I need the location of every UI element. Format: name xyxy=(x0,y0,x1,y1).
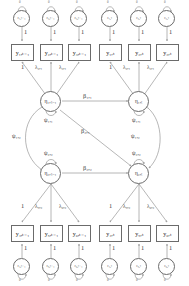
observed-label: y₁,ₜ xyxy=(106,50,115,56)
loading-label-lambda21: λ₂,₁ xyxy=(123,65,130,70)
error-label: ε₃,ₜ xyxy=(164,17,169,21)
error-node-eps2-t[interactable]: ε₂,ₜ xyxy=(130,10,147,27)
error-node-eps6-t[interactable]: ε₆,ₜ xyxy=(158,258,175,275)
unit-loading-label: 1 xyxy=(109,64,112,70)
error-node-eps1-t[interactable]: ε₁,ₜ xyxy=(101,10,118,27)
unit-loading-label: 1 xyxy=(112,29,115,35)
observed-label: y₃,ₜ₋₁ xyxy=(73,50,87,56)
latent-node-eta1-t-1[interactable]: η₁,ₜ₋₁ xyxy=(40,91,61,112)
observed-node-y1-t[interactable]: y₁,ₜ xyxy=(99,44,122,61)
observed-label: y₂,ₜ₋₁ xyxy=(45,50,59,56)
unit-loading-label: 1 xyxy=(141,245,144,251)
loading-label-lambda31: λ₃,₁ xyxy=(147,65,154,70)
latent-label: η₁,ₜ xyxy=(135,99,142,104)
observed-label: y₂,ₜ xyxy=(135,50,144,56)
theta-label: θ xyxy=(19,279,21,282)
observed-node-y6-t[interactable]: y₆,ₜ xyxy=(156,225,179,242)
error-label: ε₁,ₜ₋₁ xyxy=(18,17,26,21)
unit-loading-label: 1 xyxy=(53,29,56,35)
error-label: ε₃,ₜ₋₁ xyxy=(75,17,83,21)
error-node-eps6-t-1[interactable]: ε₆,ₜ₋₁ xyxy=(70,258,87,275)
variance-label-psi22-left: ψ₂,₂ xyxy=(44,151,53,157)
observed-label: y₆,ₜ xyxy=(163,231,172,237)
error-node-eps3-t-1[interactable]: ε₃,ₜ₋₁ xyxy=(70,10,87,27)
error-label: ε₁,ₜ xyxy=(107,17,112,21)
observed-node-y1-t-1[interactable]: y₁,ₜ₋₁ xyxy=(11,44,34,61)
unit-loading-label: 1 xyxy=(109,203,112,209)
observed-label: y₃,ₜ xyxy=(163,50,172,56)
error-label: ε₅,ₜ₋₁ xyxy=(47,265,55,269)
unit-loading-label: 1 xyxy=(169,245,172,251)
unit-loading-label: 1 xyxy=(24,29,27,35)
observed-label: y₆,ₜ₋₁ xyxy=(73,231,87,237)
loading-label-lambda62: λ₆,₂ xyxy=(59,204,66,209)
error-node-eps1-t-1[interactable]: ε₁,ₜ₋₁ xyxy=(13,10,30,27)
variance-label-psi11-right: ψ₁,₁ xyxy=(132,118,141,124)
variance-label-psi22-right: ψ₂,₂ xyxy=(132,151,141,157)
error-label: ε₅,ₜ xyxy=(136,265,141,269)
error-node-eps5-t[interactable]: ε₅,ₜ xyxy=(130,258,147,275)
theta-label: θ xyxy=(164,1,166,4)
theta-label: θ xyxy=(48,1,50,4)
observed-node-y5-t-1[interactable]: y₅,ₜ₋₁ xyxy=(40,225,63,242)
theta-label: θ xyxy=(76,279,78,282)
observed-node-y4-t[interactable]: y₄,ₜ xyxy=(99,225,122,242)
diagram-wires xyxy=(0,0,189,286)
error-label: ε₂,ₜ₋₁ xyxy=(47,17,55,21)
observed-node-y3-t-1[interactable]: y₃,ₜ₋₁ xyxy=(68,44,91,61)
loading-label-lambda31: λ₃,₁ xyxy=(59,65,66,70)
error-node-eps4-t[interactable]: ε₄,ₜ xyxy=(101,258,118,275)
theta-label: θ xyxy=(164,279,166,282)
latent-label: η₂,ₜ₋₁ xyxy=(45,171,57,176)
error-node-eps4-t-1[interactable]: ε₄,ₜ₋₁ xyxy=(13,258,30,275)
theta-label: θ xyxy=(48,279,50,282)
loading-label-lambda21: λ₂,₁ xyxy=(35,65,42,70)
unit-loading-label: 1 xyxy=(112,245,115,251)
observed-label: y₄,ₜ xyxy=(106,231,115,237)
unit-loading-label: 1 xyxy=(169,29,172,35)
theta-label: θ xyxy=(107,1,109,4)
error-node-eps3-t[interactable]: ε₃,ₜ xyxy=(158,10,175,27)
variance-label-psi11-left: ψ₁,₁ xyxy=(44,118,53,124)
latent-node-eta2-t[interactable]: η₂,ₜ xyxy=(128,163,149,184)
loading-label-lambda52: λ₅,₂ xyxy=(123,204,130,209)
error-label: ε₆,ₜ₋₁ xyxy=(75,265,83,269)
unit-loading-label: 1 xyxy=(24,245,27,251)
latent-node-eta2-t-1[interactable]: η₂,ₜ₋₁ xyxy=(40,163,61,184)
observed-node-y3-t[interactable]: y₃,ₜ xyxy=(156,44,179,61)
path-label-beta11: β₁,₁ xyxy=(83,93,92,99)
unit-loading-label: 1 xyxy=(81,29,84,35)
theta-label: θ xyxy=(136,1,138,4)
observed-node-y6-t-1[interactable]: y₆,ₜ₋₁ xyxy=(68,225,91,242)
error-label: ε₄,ₜ₋₁ xyxy=(18,265,26,269)
error-node-eps2-t-1[interactable]: ε₂,ₜ₋₁ xyxy=(42,10,59,27)
theta-label: θ xyxy=(19,1,21,4)
unit-loading-label: 1 xyxy=(141,29,144,35)
theta-label: θ xyxy=(107,279,109,282)
path-label-beta21: β₂,₁ xyxy=(81,128,90,134)
latent-label: η₂,ₜ xyxy=(135,171,142,176)
observed-node-y4-t-1[interactable]: y₄,ₜ₋₁ xyxy=(11,225,34,242)
error-label: ε₆,ₜ xyxy=(164,265,169,269)
observed-node-y2-t[interactable]: y₂,ₜ xyxy=(128,44,151,61)
observed-label: y₁,ₜ₋₁ xyxy=(16,50,30,56)
loading-label-lambda52: λ₅,₂ xyxy=(35,204,42,209)
observed-node-y5-t[interactable]: y₅,ₜ xyxy=(128,225,151,242)
error-label: ε₂,ₜ xyxy=(136,17,141,21)
observed-label: y₅,ₜ₋₁ xyxy=(45,231,59,237)
observed-node-y2-t-1[interactable]: y₂,ₜ₋₁ xyxy=(40,44,63,61)
error-label: ε₄,ₜ xyxy=(107,265,112,269)
latent-label: η₁,ₜ₋₁ xyxy=(45,99,57,104)
covariance-label-psi12-right: ψ₁,₂ xyxy=(131,134,140,140)
unit-loading-label: 1 xyxy=(21,64,24,70)
path-label-beta22: β₂,₂ xyxy=(83,165,92,171)
loading-label-lambda62: λ₆,₂ xyxy=(147,204,154,209)
covariance-label-psi12-left: ψ₁,₂ xyxy=(12,134,21,140)
observed-label: y₅,ₜ xyxy=(135,231,144,237)
error-node-eps5-t-1[interactable]: ε₅,ₜ₋₁ xyxy=(42,258,59,275)
observed-label: y₄,ₜ₋₁ xyxy=(16,231,30,237)
unit-loading-label: 1 xyxy=(53,245,56,251)
latent-node-eta1-t[interactable]: η₁,ₜ xyxy=(128,91,149,112)
sem-path-diagram: ε₁,ₜ₋₁ ε₂,ₜ₋₁ ε₃,ₜ₋₁ ε₁,ₜ ε₂,ₜ ε₃,ₜ θ θ … xyxy=(0,0,189,286)
unit-loading-label: 1 xyxy=(21,203,24,209)
